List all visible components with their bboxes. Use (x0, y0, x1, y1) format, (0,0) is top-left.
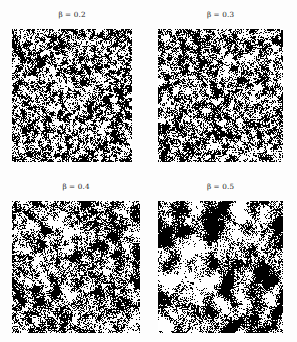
panel-beta-0-5: β = 0.5 (158, 178, 283, 334)
panel-title: β = 0.2 (12, 10, 132, 19)
lattice-image (12, 201, 140, 333)
lattice-canvas (12, 29, 132, 162)
lattice-image (158, 201, 283, 333)
panel-title: β = 0.3 (158, 10, 283, 19)
panel-title: β = 0.5 (158, 182, 283, 191)
panel-beta-0-4: β = 0.4 (12, 178, 140, 334)
lattice-image (12, 29, 132, 162)
panel-beta-0-3: β = 0.3 (158, 6, 283, 162)
panel-beta-0-2: β = 0.2 (12, 6, 132, 162)
panel-title: β = 0.4 (12, 182, 140, 191)
lattice-image (158, 29, 283, 162)
lattice-canvas (12, 201, 140, 333)
lattice-canvas (158, 201, 283, 333)
ising-figure: β = 0.2 β = 0.3 β = 0.4 β = 0.5 (0, 0, 297, 342)
lattice-canvas (158, 29, 283, 162)
